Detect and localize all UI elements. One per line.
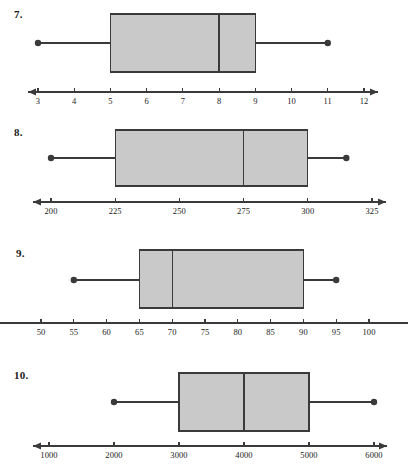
question-number: 10. xyxy=(14,369,28,381)
axis-tick-label: 225 xyxy=(109,206,122,216)
axis-tick-label: 9 xyxy=(253,96,257,106)
box-iqr xyxy=(139,250,303,308)
axis-tick-label: 65 xyxy=(135,327,144,337)
max-endpoint-dot xyxy=(333,277,339,283)
axis-arrow-right xyxy=(379,443,387,450)
max-endpoint-dot xyxy=(343,155,349,161)
min-endpoint-dot xyxy=(35,40,41,46)
plot-graphics xyxy=(0,355,408,475)
axis-tick-label: 10 xyxy=(287,96,296,106)
box-iqr xyxy=(115,130,308,186)
plot-graphics xyxy=(0,118,408,235)
axis-tick-label: 7 xyxy=(181,96,185,106)
axis-tick-label: 3 xyxy=(36,96,40,106)
axis-tick-label: 85 xyxy=(266,327,275,337)
axis-tick-label: 5000 xyxy=(300,450,317,460)
box-plot-plot-10: 10.100020003000400050006000 xyxy=(0,355,408,475)
axis-tick-label: 75 xyxy=(201,327,210,337)
min-endpoint-dot xyxy=(71,277,77,283)
axis-tick-label: 3000 xyxy=(170,450,187,460)
axis-tick-label: 5 xyxy=(108,96,112,106)
axis-arrow-left xyxy=(33,199,41,206)
axis-tick-label: 1000 xyxy=(40,450,57,460)
axis-tick-label: 300 xyxy=(301,206,314,216)
axis-arrow-left xyxy=(33,443,41,450)
question-number: 7. xyxy=(14,8,23,20)
axis-tick-label: 55 xyxy=(69,327,78,337)
axis-tick-label: 60 xyxy=(102,327,111,337)
axis-tick-label: 6 xyxy=(144,96,148,106)
axis-tick-label: 275 xyxy=(237,206,250,216)
axis-tick-label: 70 xyxy=(168,327,177,337)
box-iqr xyxy=(110,14,255,72)
plot-graphics xyxy=(0,235,408,355)
question-number: 9. xyxy=(16,247,25,259)
axis-tick-label: 95 xyxy=(332,327,341,337)
axis-tick-label: 200 xyxy=(44,206,57,216)
plot-graphics xyxy=(0,0,408,118)
max-endpoint-dot xyxy=(371,399,377,405)
axis-arrow-left xyxy=(28,89,36,96)
axis-tick-label: 250 xyxy=(173,206,186,216)
box-plot-plot-7: 7.3456789101112 xyxy=(0,0,408,118)
axis-tick-label: 2000 xyxy=(105,450,122,460)
axis-tick-label: 4 xyxy=(72,96,76,106)
axis-tick-label: 12 xyxy=(360,96,369,106)
axis-tick-label: 80 xyxy=(233,327,242,337)
axis-arrow-right xyxy=(370,89,378,96)
box-plot-plot-9: 9.50556065707580859095100 xyxy=(0,235,408,355)
axis-tick-label: 50 xyxy=(37,327,46,337)
question-number: 8. xyxy=(14,126,23,138)
box-plot-plot-8: 8.200225250275300325 xyxy=(0,118,408,235)
axis-tick-label: 8 xyxy=(217,96,221,106)
min-endpoint-dot xyxy=(48,155,54,161)
axis-tick-label: 4000 xyxy=(235,450,252,460)
axis-tick-label: 11 xyxy=(324,96,332,106)
max-endpoint-dot xyxy=(325,40,331,46)
axis-tick-label: 325 xyxy=(365,206,378,216)
axis-tick-label: 90 xyxy=(299,327,308,337)
axis-arrow-right xyxy=(378,199,386,206)
axis-tick-label: 100 xyxy=(362,327,375,337)
min-endpoint-dot xyxy=(111,399,117,405)
axis-tick-label: 6000 xyxy=(365,450,382,460)
